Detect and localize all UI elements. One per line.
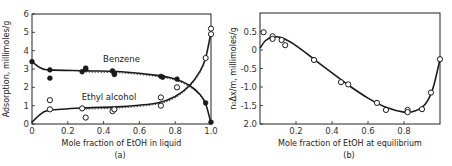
data-point xyxy=(405,110,410,115)
y-tick-label: -0.5 xyxy=(240,64,257,74)
x-tick-label: 0.2 xyxy=(289,126,303,136)
series-ethyl-alcohol xyxy=(32,26,214,122)
data-point xyxy=(160,75,165,80)
data-point xyxy=(270,36,275,41)
data-point xyxy=(158,95,163,100)
chart-panel-b: 0.20.40.60.80.50-0.5-1.0-1.52.0Mole frac… xyxy=(229,13,443,160)
x-axis-label: Mole fraction of EtOH at equilibrium xyxy=(278,139,422,148)
y-tick-label: 2 xyxy=(24,82,29,92)
annotation-ethyl-alcohol: Ethyl alcohol xyxy=(82,92,137,102)
x-tick-label: 0 xyxy=(29,126,34,136)
y-tick-label: 4 xyxy=(24,46,29,56)
y-tick-label: -1.0 xyxy=(240,82,257,92)
data-point xyxy=(158,103,163,108)
x-tick-label: 0.4 xyxy=(97,126,111,136)
y-tick-label: 3 xyxy=(24,64,29,74)
data-point xyxy=(203,101,208,106)
data-point xyxy=(279,37,284,42)
data-point xyxy=(48,76,53,81)
data-point xyxy=(112,72,117,77)
x-tick-label: 1.0 xyxy=(204,126,218,136)
data-point xyxy=(437,57,442,62)
x-tick-label: 0.4 xyxy=(325,126,339,136)
y-tick-label: 2.0 xyxy=(243,119,257,129)
fit-curve xyxy=(260,37,440,113)
annotation-benzene: Benzene xyxy=(103,54,140,64)
y-tick-label: 6 xyxy=(24,9,29,19)
data-point xyxy=(47,107,52,112)
data-point xyxy=(283,43,288,48)
data-point xyxy=(203,55,208,60)
data-point xyxy=(30,59,35,64)
x-tick-label: 0.6 xyxy=(133,126,147,136)
data-point xyxy=(112,107,117,112)
x-tick-label: 0.2 xyxy=(61,126,75,136)
data-point xyxy=(175,77,180,82)
x-axis-label: Mole fraction of EtOH in liquid xyxy=(62,139,182,148)
panel-caption: (a) xyxy=(114,151,125,160)
data-point xyxy=(208,26,213,31)
figure: 00.20.40.60.81.00123456Mole fraction of … xyxy=(0,0,452,166)
data-point xyxy=(83,66,88,71)
data-point xyxy=(261,30,266,35)
x-tick-label: 0.8 xyxy=(397,126,411,136)
data-point xyxy=(174,85,179,90)
y-tick-label: 0.5 xyxy=(243,27,257,37)
data-point xyxy=(311,57,316,62)
y-axis-label: Adsorption, millimoles/g xyxy=(2,21,11,118)
data-point xyxy=(209,120,214,125)
plot-frame xyxy=(32,14,211,124)
data-point xyxy=(208,32,213,37)
series-excess-adsorption xyxy=(260,30,443,115)
fit-curve xyxy=(32,32,211,122)
data-point xyxy=(338,80,343,85)
data-point xyxy=(83,115,88,120)
plot-frame xyxy=(260,13,440,124)
y-tick-label: 0 xyxy=(252,45,257,55)
data-point xyxy=(80,106,85,111)
y-tick-label: -1.5 xyxy=(240,101,257,111)
x-tick-label: 0.6 xyxy=(361,126,375,136)
data-point xyxy=(47,98,52,103)
y-axis-label: n₀Δx/m, millimoles/g xyxy=(229,27,238,110)
data-point xyxy=(346,82,351,87)
data-point xyxy=(383,107,388,112)
chart-panel-a: 00.20.40.60.81.00123456Mole fraction of … xyxy=(2,9,218,160)
data-point xyxy=(374,100,379,105)
y-tick-label: 0 xyxy=(24,119,29,129)
panel-caption: (b) xyxy=(343,151,354,160)
data-point xyxy=(428,90,433,95)
x-tick-label: 0.8 xyxy=(168,126,182,136)
y-tick-label: 5 xyxy=(24,27,29,37)
data-point xyxy=(48,68,53,73)
y-tick-label: 1 xyxy=(24,101,29,111)
data-point xyxy=(419,107,424,112)
